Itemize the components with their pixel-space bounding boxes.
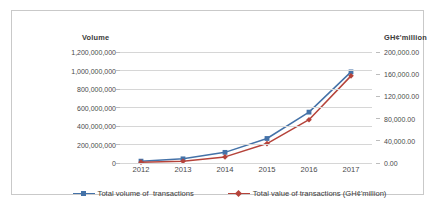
left-axis-tick-label: 1,200,000,000 xyxy=(71,49,116,56)
right-axis-tick-mark xyxy=(376,118,380,119)
legend-marker-icon xyxy=(81,191,86,196)
gridline xyxy=(120,52,372,53)
left-axis-tick-label: 600,000,000 xyxy=(77,104,116,111)
right-axis-tick-label: 0.00 xyxy=(384,160,398,167)
right-axis-tick-label: 40,000.00 xyxy=(384,137,415,144)
legend-marker-icon xyxy=(235,190,242,197)
data-point-marker xyxy=(265,136,270,141)
plot-area xyxy=(120,52,372,163)
legend-label: Total value of transactions (GH¢'million… xyxy=(253,189,387,198)
legend-item-1[interactable]: Total volume of transactions xyxy=(73,189,194,198)
right-axis-tick-label: 80,000.00 xyxy=(384,115,415,122)
x-axis-tick-label: 2012 xyxy=(133,165,150,174)
data-point-marker xyxy=(222,154,228,160)
right-axis-tick-mark xyxy=(376,96,380,97)
chart-legend: Total volume of transactionsTotal value … xyxy=(23,185,436,201)
legend-key-icon xyxy=(228,189,250,198)
legend-key-icon xyxy=(73,189,95,198)
series-line xyxy=(141,72,351,161)
gridline xyxy=(120,144,372,145)
left-axis-tick-label: 800,000,000 xyxy=(77,86,116,93)
series-1 xyxy=(139,69,354,163)
data-point-marker xyxy=(307,110,312,115)
right-axis-tick-mark xyxy=(376,163,380,164)
right-axis-tick-label: 120,000.00 xyxy=(384,93,419,100)
left-axis-tick-label: 400,000,000 xyxy=(77,123,116,130)
right-axis-title: GH¢'million xyxy=(384,33,427,42)
chart-container: Volume GH¢'million 0200,000,000400,000,0… xyxy=(11,10,424,195)
right-axis-tick-mark xyxy=(376,52,380,53)
legend-item-2[interactable]: Total value of transactions (GH¢'million… xyxy=(228,189,387,198)
legend-label: Total volume of transactions xyxy=(98,189,194,198)
right-axis-tick-label: 200,000.00 xyxy=(384,49,419,56)
x-axis-labels: 201220132014201520162017 xyxy=(120,165,372,179)
left-axis-title: Volume xyxy=(82,33,109,42)
left-axis-tick-label: 200,000,000 xyxy=(77,141,116,148)
right-axis-tick-mark xyxy=(376,140,380,141)
x-axis-tick-label: 2015 xyxy=(259,165,276,174)
left-axis-tick-label: 1,000,000,000 xyxy=(71,67,116,74)
gridline xyxy=(120,107,372,108)
right-axis-tick-mark xyxy=(376,74,380,75)
right-axis-ticks: 0.0040,000.0080,000.00120,000.00160,000.… xyxy=(376,52,438,163)
left-axis-ticks: 0200,000,000400,000,000600,000,000800,00… xyxy=(26,52,116,163)
gridline xyxy=(120,89,372,90)
x-axis-tick-label: 2017 xyxy=(343,165,360,174)
gridline xyxy=(120,126,372,127)
right-axis-tick-label: 160,000.00 xyxy=(384,71,419,78)
x-axis-tick-label: 2013 xyxy=(175,165,192,174)
x-axis-tick-label: 2016 xyxy=(301,165,318,174)
series-2 xyxy=(138,73,354,165)
x-axis-tick-label: 2014 xyxy=(217,165,234,174)
gridline xyxy=(120,163,372,164)
gridline xyxy=(120,70,372,71)
data-point-marker xyxy=(223,150,228,155)
